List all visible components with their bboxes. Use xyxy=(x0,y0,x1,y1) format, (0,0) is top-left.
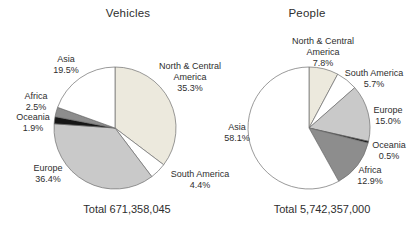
slice-name: South America xyxy=(328,68,420,79)
slice-percent: 19.5% xyxy=(40,65,92,76)
vehicles-total: Total 671,358,045 xyxy=(42,203,212,215)
label-vehicles-asia: Asia 19.5% xyxy=(40,54,92,76)
label-people-south-america: South America 5.7% xyxy=(328,68,420,90)
slice-percent: 5.7% xyxy=(328,79,420,90)
slice-percent: 4.4% xyxy=(152,180,248,191)
label-people-north-central-america: North & Central America 7.8% xyxy=(277,36,369,69)
label-vehicles-europe: Europe 36.4% xyxy=(20,163,76,185)
slice-name: North & Central America xyxy=(277,36,369,58)
slice-percent: 0.5% xyxy=(361,151,417,162)
slice-name: Europe xyxy=(362,105,414,116)
label-people-oceania: Oceania 0.5% xyxy=(361,140,417,162)
vehicles-chart-title: Vehicles xyxy=(68,7,188,19)
label-vehicles-north-central-america: North & Central America 35.3% xyxy=(144,61,236,94)
slice-name: Africa xyxy=(344,165,396,176)
label-vehicles-africa: Africa 2.5% xyxy=(10,91,62,113)
slice-name: Africa xyxy=(10,91,62,102)
slice-name: Europe xyxy=(20,163,76,174)
slice-percent: 15.0% xyxy=(362,116,414,127)
label-vehicles-south-america: South America 4.4% xyxy=(152,169,248,191)
label-people-europe: Europe 15.0% xyxy=(362,105,414,127)
slice-name: Oceania xyxy=(361,140,417,151)
slice-name: Oceania xyxy=(5,112,61,123)
people-chart-title: People xyxy=(247,7,367,19)
people-total: Total 5,742,357,000 xyxy=(237,203,407,215)
label-people-asia: Asia 58.1% xyxy=(211,122,263,144)
continental-pie-figure: Vehicles People Asia 19.5% Africa 2.5% O… xyxy=(0,0,420,227)
slice-percent: 58.1% xyxy=(211,133,263,144)
slice-percent: 36.4% xyxy=(20,174,76,185)
label-vehicles-oceania: Oceania 1.9% xyxy=(5,112,61,134)
slice-percent: 12.9% xyxy=(344,176,396,187)
slice-name: South America xyxy=(152,169,248,180)
slice-percent: 1.9% xyxy=(5,123,61,134)
slice-name: North & Central America xyxy=(144,61,236,83)
slice-name: Asia xyxy=(211,122,263,133)
slice-name: Asia xyxy=(40,54,92,65)
slice-percent: 35.3% xyxy=(144,83,236,94)
label-people-africa: Africa 12.9% xyxy=(344,165,396,187)
